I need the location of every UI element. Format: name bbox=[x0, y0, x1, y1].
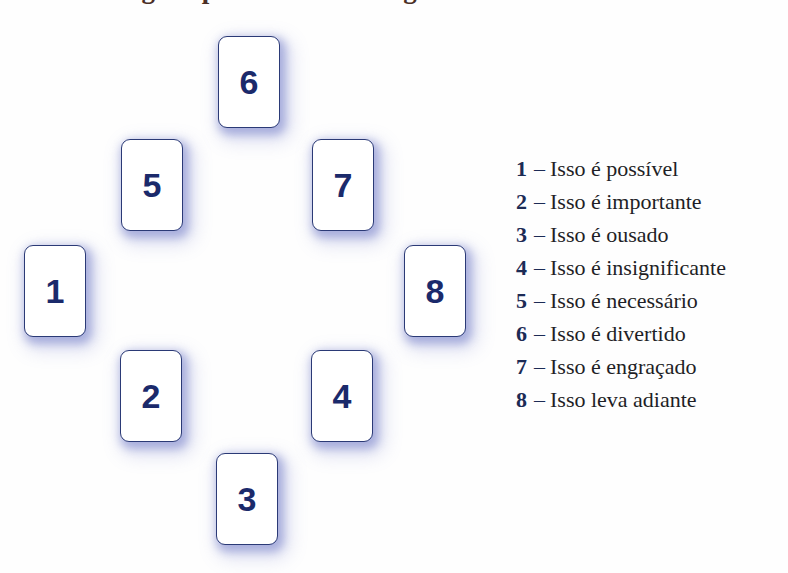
card-number-label: 4 bbox=[333, 379, 352, 413]
card-6[interactable]: 6 bbox=[218, 36, 280, 128]
legend-separator: – bbox=[530, 354, 550, 380]
legend-item-5: 5–Isso é necessário bbox=[516, 288, 784, 321]
legend-separator: – bbox=[530, 255, 550, 281]
card-number-label: 8 bbox=[426, 274, 445, 308]
legend-item-label: Isso é insignificante bbox=[550, 255, 726, 281]
legend-separator: – bbox=[530, 288, 550, 314]
legend-item-label: Isso é divertido bbox=[550, 321, 686, 347]
card-number-label: 7 bbox=[334, 168, 353, 202]
legend-item-number: 3 bbox=[516, 222, 530, 248]
card-7[interactable]: 7 bbox=[312, 139, 374, 231]
legend-separator: – bbox=[530, 321, 550, 347]
legend-item-4: 4–Isso é insignificante bbox=[516, 255, 784, 288]
card-5[interactable]: 5 bbox=[121, 139, 183, 231]
legend-separator: – bbox=[530, 156, 550, 182]
diagram-page: guas para lidar com algumas coisas ao la… bbox=[0, 0, 788, 573]
legend-item-7: 7–Isso é engraçado bbox=[516, 354, 784, 387]
legend-item-number: 6 bbox=[516, 321, 530, 347]
card-number-label: 1 bbox=[46, 274, 65, 308]
legend-separator: – bbox=[530, 189, 550, 215]
legend-item-6: 6–Isso é divertido bbox=[516, 321, 784, 354]
legend-item-number: 8 bbox=[516, 387, 530, 413]
legend-item-label: Isso leva adiante bbox=[550, 387, 697, 413]
card-number-label: 2 bbox=[142, 379, 161, 413]
card-number-label: 5 bbox=[143, 168, 162, 202]
legend-item-1: 1–Isso é possível bbox=[516, 156, 784, 189]
card-2[interactable]: 2 bbox=[120, 350, 182, 442]
legend-item-2: 2–Isso é importante bbox=[516, 189, 784, 222]
legend-item-label: Isso é engraçado bbox=[550, 354, 697, 380]
legend-item-label: Isso é necessário bbox=[550, 288, 698, 314]
card-1[interactable]: 1 bbox=[24, 245, 86, 337]
legend-list: 1–Isso é possível2–Isso é importante3–Is… bbox=[516, 156, 784, 420]
legend-separator: – bbox=[530, 222, 550, 248]
legend-item-label: Isso é ousado bbox=[550, 222, 669, 248]
card-number-label: 3 bbox=[238, 482, 257, 516]
card-cluster: 65718243 bbox=[0, 0, 500, 573]
legend-item-number: 4 bbox=[516, 255, 530, 281]
legend-separator: – bbox=[530, 387, 550, 413]
legend-item-number: 1 bbox=[516, 156, 530, 182]
legend-item-label: Isso é importante bbox=[550, 189, 702, 215]
card-4[interactable]: 4 bbox=[311, 350, 373, 442]
legend-item-3: 3–Isso é ousado bbox=[516, 222, 784, 255]
legend-item-number: 5 bbox=[516, 288, 530, 314]
legend-item-number: 7 bbox=[516, 354, 530, 380]
card-8[interactable]: 8 bbox=[404, 245, 466, 337]
legend-item-label: Isso é possível bbox=[550, 156, 678, 182]
legend-item-8: 8–Isso leva adiante bbox=[516, 387, 784, 420]
card-3[interactable]: 3 bbox=[216, 453, 278, 545]
legend-item-number: 2 bbox=[516, 189, 530, 215]
card-number-label: 6 bbox=[240, 65, 259, 99]
